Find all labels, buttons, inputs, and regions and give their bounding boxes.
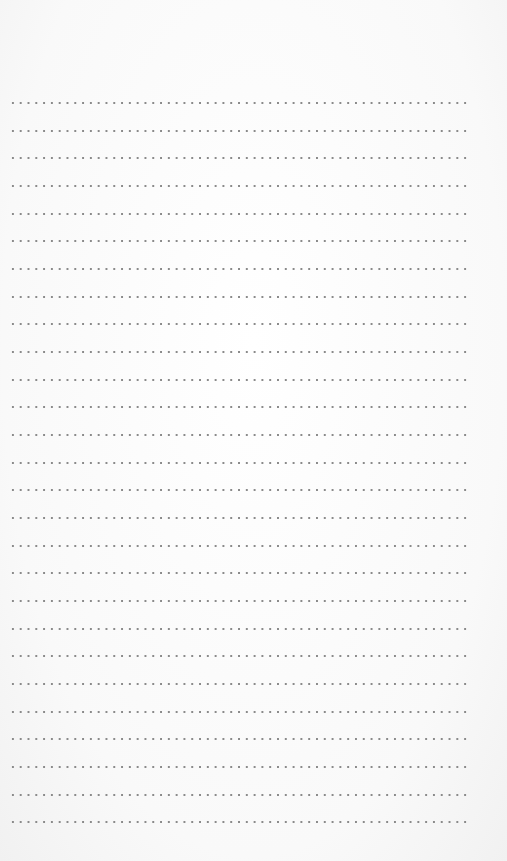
dotted-line [9,434,470,436]
dotted-line [9,600,470,602]
dotted-line [9,406,470,408]
dotted-line [9,296,470,298]
dotted-line [9,738,470,740]
dotted-line [9,545,470,547]
dotted-line [9,683,470,685]
dotted-line [9,102,470,104]
dotted-lines-container [0,0,507,861]
dotted-line [9,655,470,657]
dotted-line [9,379,470,381]
dotted-line [9,351,470,353]
dotted-line [9,240,470,242]
dotted-line [9,711,470,713]
dotted-line [9,517,470,519]
dotted-writing-page [0,0,507,861]
dotted-line [9,821,470,823]
dotted-line [9,462,470,464]
dotted-line [9,628,470,630]
dotted-line [9,323,470,325]
dotted-line [9,268,470,270]
dotted-line [9,766,470,768]
dotted-line [9,130,470,132]
dotted-line [9,794,470,796]
dotted-line [9,157,470,159]
dotted-line [9,213,470,215]
dotted-line [9,489,470,491]
dotted-line [9,185,470,187]
dotted-line [9,572,470,574]
